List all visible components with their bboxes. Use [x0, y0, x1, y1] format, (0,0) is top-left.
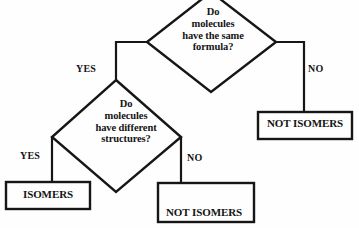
- result-box-isomers: [6, 182, 90, 209]
- edge-label-formula-no: NO: [308, 63, 323, 74]
- edge-label-structure-yes: YES: [20, 150, 40, 161]
- edge-label-formula-yes: YES: [76, 63, 96, 74]
- flowchart-graphics: [0, 0, 359, 228]
- decision-diamond-formula: [147, 0, 276, 92]
- edge-q1-no-connector: [276, 42, 304, 112]
- decision-diamond-structure: [52, 80, 181, 192]
- result-box-not-isomers-same-molecule: [158, 183, 254, 222]
- edge-label-structure-no: NO: [187, 152, 202, 163]
- result-box-not-isomers: [258, 112, 352, 139]
- edge-q1-yes-connector: [116, 42, 147, 80]
- flowchart-canvas: Do molecules have the same formula? Do m…: [0, 0, 359, 228]
